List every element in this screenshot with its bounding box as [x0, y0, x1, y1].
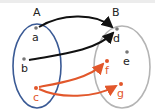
point-f	[105, 59, 109, 63]
point-d	[115, 27, 119, 31]
arrow-c-to-g	[39, 86, 116, 96]
point-a-label: a	[32, 31, 39, 44]
point-e-label: e	[123, 55, 130, 68]
point-e	[125, 50, 129, 54]
point-d-label: d	[113, 32, 120, 45]
point-g	[119, 82, 123, 86]
point-a	[34, 26, 38, 30]
set-a-label: A	[33, 6, 41, 19]
mapping-diagram: A B a b c d e f g	[0, 0, 155, 111]
point-c	[34, 86, 38, 90]
set-b-label: B	[112, 6, 120, 19]
arrow-a-to-d	[39, 16, 112, 27]
point-g-label: g	[117, 87, 124, 100]
point-f-label: f	[105, 64, 110, 77]
point-b	[22, 57, 26, 61]
arrow-b-to-d	[29, 33, 113, 60]
point-b-label: b	[21, 62, 28, 75]
point-c-label: c	[33, 91, 39, 104]
